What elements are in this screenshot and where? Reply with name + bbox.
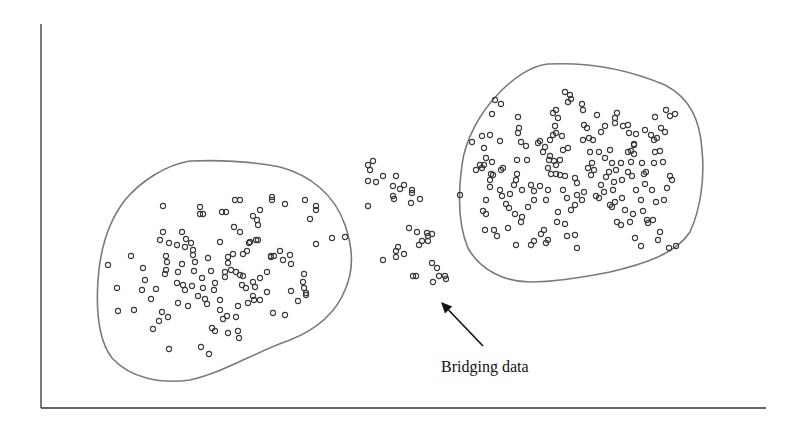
bridging-data-points	[365, 158, 448, 284]
data-point	[610, 187, 615, 192]
data-point	[598, 182, 603, 187]
data-point	[163, 253, 168, 258]
data-point	[401, 182, 406, 187]
data-point	[574, 180, 579, 185]
data-point	[436, 273, 441, 278]
data-point	[632, 235, 637, 240]
data-point	[179, 261, 184, 266]
data-point	[565, 145, 570, 150]
data-point	[650, 217, 655, 222]
data-point	[657, 229, 662, 234]
data-point	[190, 247, 195, 252]
data-point	[232, 197, 237, 202]
data-point	[612, 199, 617, 204]
data-point	[301, 285, 306, 290]
data-point	[652, 114, 657, 119]
data-point	[642, 181, 647, 186]
data-point	[430, 279, 435, 284]
data-point	[630, 211, 635, 216]
data-point	[159, 309, 164, 314]
data-point	[230, 251, 235, 256]
data-point	[547, 137, 552, 142]
data-point	[572, 232, 577, 237]
data-point	[559, 133, 564, 138]
data-point	[620, 123, 625, 128]
data-point	[156, 318, 161, 323]
data-point	[282, 201, 287, 206]
data-point	[191, 268, 196, 273]
data-point	[182, 287, 187, 292]
data-point	[562, 173, 567, 178]
data-point	[633, 187, 638, 192]
data-point	[663, 107, 668, 112]
data-point	[540, 149, 545, 154]
data-point	[277, 248, 282, 253]
data-point	[639, 160, 644, 165]
data-point	[491, 227, 496, 232]
data-point	[652, 149, 657, 154]
data-point	[661, 197, 666, 202]
data-point	[185, 303, 190, 308]
data-point	[270, 310, 275, 315]
data-point	[209, 325, 214, 330]
data-point	[199, 275, 204, 280]
data-point	[393, 254, 398, 259]
data-point	[115, 308, 120, 313]
data-point	[598, 129, 603, 134]
data-point	[250, 279, 255, 284]
data-point	[175, 269, 180, 274]
data-point	[603, 174, 608, 179]
data-point	[579, 101, 584, 106]
data-point	[160, 229, 165, 234]
data-point	[489, 111, 494, 116]
data-point	[609, 160, 614, 165]
left-cluster-boundary	[97, 161, 351, 382]
data-point	[601, 189, 606, 194]
data-point	[572, 175, 577, 180]
data-point	[619, 195, 624, 200]
data-point	[515, 114, 520, 119]
data-point	[579, 197, 584, 202]
data-point	[148, 296, 153, 301]
data-point	[393, 173, 398, 178]
data-point	[225, 254, 230, 259]
data-point	[105, 262, 110, 267]
data-point	[231, 224, 236, 229]
data-point	[237, 229, 242, 234]
bridging-data-label: Bridging data	[441, 358, 529, 376]
data-point	[584, 125, 589, 130]
data-point	[555, 115, 560, 120]
data-point	[128, 253, 133, 258]
data-point	[257, 207, 262, 212]
left-cluster-points	[105, 194, 347, 356]
data-point	[183, 236, 188, 241]
data-point	[180, 282, 185, 287]
data-point	[425, 238, 430, 243]
data-point	[365, 162, 370, 167]
data-point	[417, 196, 422, 201]
data-point	[401, 251, 406, 256]
data-point	[660, 159, 665, 164]
data-point	[380, 173, 385, 178]
data-point	[633, 131, 638, 136]
data-point	[166, 240, 171, 245]
data-point	[487, 184, 492, 189]
arrow-icon	[441, 302, 483, 346]
data-point	[244, 248, 249, 253]
data-point	[531, 188, 536, 193]
data-point	[560, 147, 565, 152]
data-point	[236, 335, 241, 340]
data-point	[157, 237, 162, 242]
data-point	[672, 111, 677, 116]
data-point	[235, 303, 240, 308]
data-point	[434, 265, 439, 270]
data-point	[562, 221, 567, 226]
data-point	[225, 260, 230, 265]
data-point	[228, 267, 233, 272]
data-point	[655, 237, 660, 242]
data-point	[606, 169, 611, 174]
data-point	[552, 123, 557, 128]
data-point	[627, 219, 632, 224]
data-point	[217, 297, 222, 302]
data-point	[174, 242, 179, 247]
